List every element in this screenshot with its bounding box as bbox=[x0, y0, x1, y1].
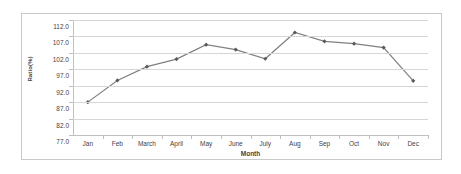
x-axis-tickmark bbox=[191, 135, 192, 139]
chart-plot-wrapper: Ratio(%) 112.0107.0102.097.092.087.082.0… bbox=[22, 14, 443, 161]
y-axis-tickmark bbox=[69, 36, 73, 37]
y-axis-tick-label: 87.0 bbox=[35, 105, 69, 112]
y-axis-tick-label: 92.0 bbox=[35, 88, 69, 95]
x-axis-tickmark bbox=[339, 135, 340, 139]
y-axis-tickmark bbox=[69, 69, 73, 70]
y-axis-tick-label: 77.0 bbox=[35, 138, 69, 145]
y-axis-tick-label: 107.0 bbox=[35, 39, 69, 46]
data-point-marker bbox=[234, 47, 238, 51]
gridline bbox=[73, 36, 428, 37]
y-axis-tickmark bbox=[69, 86, 73, 87]
y-axis-tickmark bbox=[69, 119, 73, 120]
y-axis-tickmark bbox=[69, 20, 73, 21]
x-axis-tickmark bbox=[280, 135, 281, 139]
data-point-marker bbox=[174, 57, 178, 61]
gridline bbox=[73, 20, 428, 21]
x-axis-tick-label: Dec bbox=[393, 140, 433, 147]
x-axis-tickmark bbox=[162, 135, 163, 139]
gridline bbox=[73, 86, 428, 87]
data-point-marker bbox=[352, 42, 356, 46]
data-point-marker bbox=[204, 43, 208, 47]
y-axis-tickmark bbox=[69, 102, 73, 103]
gridline bbox=[73, 119, 428, 120]
gridline bbox=[73, 69, 428, 70]
gridline bbox=[73, 53, 428, 54]
data-point-marker bbox=[322, 39, 326, 43]
y-axis-title: Ratio(%) bbox=[27, 39, 33, 99]
x-axis-tickmark bbox=[369, 135, 370, 139]
y-axis-tickmark bbox=[69, 135, 73, 136]
y-axis-tickmark bbox=[69, 53, 73, 54]
x-axis-title: Month bbox=[73, 150, 428, 157]
y-axis-tick-label: 97.0 bbox=[35, 72, 69, 79]
data-point-marker bbox=[145, 65, 149, 69]
x-axis-tickmark bbox=[132, 135, 133, 139]
x-axis-tickmark bbox=[398, 135, 399, 139]
y-axis-tick-label: 102.0 bbox=[35, 55, 69, 62]
x-axis-tickmark bbox=[251, 135, 252, 139]
y-axis-tick-label: 82.0 bbox=[35, 121, 69, 128]
y-axis-tick-label: 112.0 bbox=[35, 23, 69, 30]
series-line bbox=[88, 32, 413, 102]
plot-area bbox=[73, 20, 428, 135]
y-axis-tick-labels: 112.0107.0102.097.092.087.082.077.0 bbox=[35, 20, 69, 135]
x-axis-tickmark bbox=[221, 135, 222, 139]
x-axis-tickmark bbox=[310, 135, 311, 139]
x-axis-tickmark bbox=[103, 135, 104, 139]
gridline bbox=[73, 102, 428, 103]
x-axis-tickmark bbox=[428, 135, 429, 139]
chart-frame: Ratio(%) 112.0107.0102.097.092.087.082.0… bbox=[21, 13, 442, 160]
